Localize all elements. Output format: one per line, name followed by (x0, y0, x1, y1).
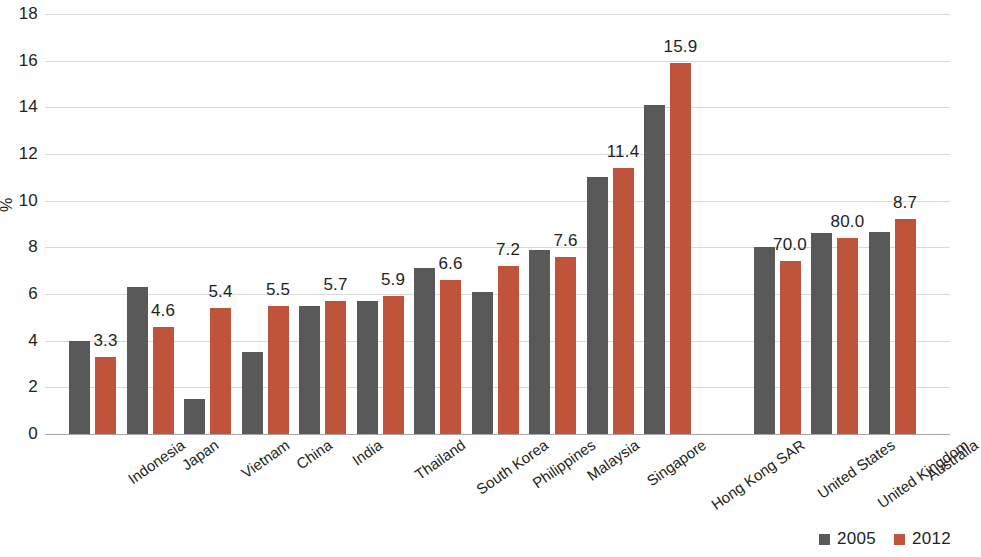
bar-2005[interactable] (357, 301, 378, 434)
x-axis-category-labels: IndonesiaJapanVietnamChinaIndiaThailandS… (45, 436, 950, 526)
bar-group (529, 14, 576, 434)
bar-2012[interactable] (498, 266, 519, 434)
bar-value-label: 11.4 (607, 142, 640, 162)
bar-group (299, 14, 346, 434)
legend-swatch-icon (894, 534, 905, 545)
bar-group (754, 14, 801, 434)
bar-2012[interactable] (670, 63, 691, 434)
bar-value-label: 15.9 (664, 37, 698, 57)
y-axis-tick-label: 12 (4, 144, 38, 164)
x-axis-label: Hong Kong SAR (708, 436, 808, 513)
y-axis-tick-label: 0 (4, 424, 38, 444)
bar-2012[interactable] (325, 301, 346, 434)
bar-value-label: 80.0 (831, 212, 865, 232)
x-axis-label: China (293, 436, 335, 472)
bar-value-label: 7.6 (553, 231, 577, 251)
bar-group (644, 14, 691, 434)
bar-2005[interactable] (587, 177, 608, 434)
bar-2005[interactable] (869, 232, 890, 434)
y-axis-tick-label: 10 (4, 191, 38, 211)
bar-group (472, 14, 519, 434)
y-axis-tick-label: 14 (4, 97, 38, 117)
bar-2005[interactable] (472, 292, 493, 434)
bar-2005[interactable] (184, 399, 205, 434)
bar-2012[interactable] (383, 296, 404, 434)
legend-swatch-icon (819, 534, 830, 545)
bar-2012[interactable] (153, 327, 174, 434)
legend-label: 2012 (912, 529, 951, 549)
bar-2005[interactable] (414, 268, 435, 434)
bar-group (184, 14, 231, 434)
bar-group (414, 14, 461, 434)
bar-value-label: 3.3 (93, 331, 117, 351)
bar-2005[interactable] (811, 233, 832, 434)
bar-2005[interactable] (69, 341, 90, 434)
x-axis-baseline (45, 434, 950, 435)
bar-2012[interactable] (95, 357, 116, 434)
plot-area: 3.34.65.45.55.75.96.67.27.611.415.970.08… (45, 14, 950, 434)
bar-value-label: 5.5 (266, 280, 290, 300)
bar-2005[interactable] (242, 352, 263, 434)
bar-2012[interactable] (895, 219, 916, 434)
bar-group (357, 14, 404, 434)
x-axis-label: Indonesia (125, 436, 188, 487)
bar-value-label: 70.0 (773, 235, 807, 255)
bar-group (69, 14, 116, 434)
y-axis-tick-label: 8 (4, 237, 38, 257)
bar-group (242, 14, 289, 434)
bar-2012[interactable] (780, 261, 801, 434)
x-axis-label: India (349, 436, 385, 469)
bar-2005[interactable] (299, 306, 320, 434)
bar-2005[interactable] (644, 105, 665, 434)
bar-2012[interactable] (837, 238, 858, 434)
bar-2012[interactable] (210, 308, 231, 434)
y-axis-tick-label: 18 (4, 4, 38, 24)
legend-item[interactable]: 2012 (894, 529, 951, 549)
y-axis-tick-label: 4 (4, 331, 38, 351)
bar-value-label: 6.6 (438, 254, 462, 274)
x-axis-label: Thailand (411, 436, 468, 483)
bar-value-label: 5.9 (381, 270, 405, 290)
bar-value-label: 5.7 (323, 275, 347, 295)
bar-group (587, 14, 634, 434)
legend-item[interactable]: 2005 (819, 529, 876, 549)
x-axis-label: Singapore (643, 436, 709, 489)
bar-value-label: 4.6 (151, 301, 175, 321)
bar-2005[interactable] (754, 247, 775, 434)
legend-label: 2005 (837, 529, 876, 549)
x-axis-label: Vietnam (238, 436, 293, 481)
y-axis-tick-labels: 024681012141618 (0, 14, 38, 434)
bar-2012[interactable] (555, 257, 576, 434)
bar-value-label: 5.4 (208, 282, 232, 302)
x-axis-label: Japan (178, 436, 221, 473)
chart-legend: 20052012 (819, 529, 951, 549)
bar-2012[interactable] (268, 306, 289, 434)
bar-group (127, 14, 174, 434)
bar-2005[interactable] (529, 250, 550, 434)
bar-2012[interactable] (440, 280, 461, 434)
y-axis-tick-label: 2 (4, 377, 38, 397)
y-axis-tick-label: 16 (4, 51, 38, 71)
bar-2012[interactable] (613, 168, 634, 434)
y-axis-tick-label: 6 (4, 284, 38, 304)
bar-value-label: 7.2 (496, 240, 520, 260)
bar-group (869, 14, 916, 434)
bar-value-label: 8.7 (893, 193, 917, 213)
bar-2005[interactable] (127, 287, 148, 434)
